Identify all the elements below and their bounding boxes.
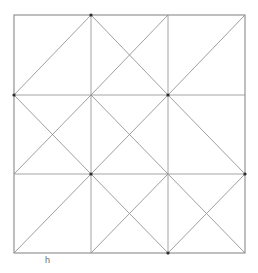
diagonal-edges	[14, 15, 245, 253]
dimension-label-h: h	[45, 255, 50, 265]
mesh-node	[166, 251, 169, 254]
mesh-node	[12, 93, 15, 96]
mesh-diagram	[0, 0, 258, 273]
diagonal-edge	[14, 174, 91, 253]
diagonal-edge	[168, 15, 245, 95]
diagonal-edge	[168, 95, 245, 174]
mesh-node	[89, 13, 92, 16]
mesh-node	[243, 172, 246, 175]
mesh-node	[89, 172, 92, 175]
diagonal-edge	[14, 15, 91, 95]
mesh-node	[166, 93, 169, 96]
geometry-figure: h	[0, 0, 258, 273]
